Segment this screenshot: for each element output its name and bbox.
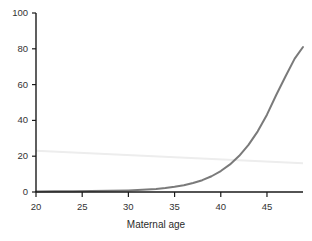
x-tick-label: 30: [108, 202, 148, 212]
chart-figure: 020406080100 202530354045 Maternal age: [0, 0, 312, 241]
y-tick-label: 20: [0, 151, 28, 161]
x-axis-label: Maternal age: [0, 220, 312, 230]
x-tick-label: 20: [16, 202, 56, 212]
y-tick-label: 0: [0, 187, 28, 197]
y-tick-label: 60: [0, 80, 28, 90]
x-tick-label: 35: [155, 202, 195, 212]
y-tick-label: 40: [0, 115, 28, 125]
y-tick-label: 100: [0, 8, 28, 18]
x-tick-label: 40: [201, 202, 241, 212]
y-tick-label: 80: [0, 44, 28, 54]
data-curve-group: [36, 47, 303, 191]
risk-curve-line: [36, 47, 303, 191]
reference-line-group: [36, 151, 303, 164]
reference-line: [36, 151, 303, 164]
x-tick-label: 25: [62, 202, 102, 212]
x-tick-label: 45: [247, 202, 287, 212]
axis-lines: [36, 13, 303, 192]
